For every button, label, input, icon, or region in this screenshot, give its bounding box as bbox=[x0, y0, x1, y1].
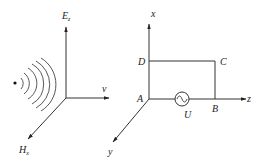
loop-circuit-diagram: x z y A B C D U bbox=[107, 8, 251, 157]
em-wave-diagram: Ez v Hx bbox=[13, 10, 109, 156]
source-u-label: U bbox=[184, 109, 192, 120]
point-b-label: B bbox=[212, 103, 218, 114]
x-axis-label: x bbox=[150, 8, 156, 19]
point-a-label: A bbox=[136, 93, 144, 104]
point-c-label: C bbox=[220, 56, 227, 67]
ac-source-icon bbox=[175, 92, 189, 106]
wavefront-arcs bbox=[21, 58, 56, 111]
y-axis-label: y bbox=[107, 146, 113, 157]
v-axis-label: v bbox=[102, 83, 107, 94]
e-axis-label: Ez bbox=[61, 10, 71, 22]
point-d-label: D bbox=[137, 56, 146, 67]
h-axis bbox=[28, 98, 66, 139]
z-axis-label: z bbox=[246, 93, 251, 104]
diagram-canvas: Ez v Hx x z y A B C D U bbox=[0, 0, 255, 166]
h-axis-label: Hx bbox=[18, 144, 29, 156]
source-dot bbox=[13, 81, 16, 84]
y-axis bbox=[113, 99, 149, 142]
